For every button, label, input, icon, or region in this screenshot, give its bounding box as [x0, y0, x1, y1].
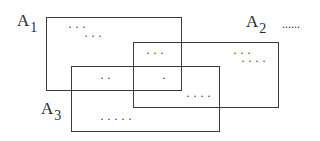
elements-a1-a3-intersection: ·· — [100, 72, 114, 84]
set-a1-label: A1 — [17, 12, 37, 29]
elements-a2-a3-intersection: ···· — [186, 90, 214, 102]
set-a1-letter: A — [17, 11, 29, 30]
set-a3-label: A3 — [41, 100, 61, 117]
elements-a1-a2-intersection: ··· — [146, 47, 167, 59]
set-a2-subscript: 2 — [259, 21, 266, 36]
sets-diagram: A1 A2 A3 ...... ··· ··· ··· ··· ···· ·· … — [0, 0, 320, 141]
set-a2-letter: A — [246, 12, 258, 31]
set-a3-subscript: 3 — [54, 108, 61, 123]
continuation-ellipsis: ...... — [282, 18, 300, 30]
elements-a3-only: ····· — [100, 113, 135, 125]
set-a2-label: A2 — [246, 13, 266, 30]
set-a1-subscript: 1 — [30, 20, 37, 35]
set-a3-letter: A — [41, 99, 53, 118]
elements-a1-a2-a3-intersection: · — [162, 72, 169, 84]
elements-a2-only-row2: ···· — [241, 55, 269, 67]
elements-a1-only-row2: ··· — [84, 30, 105, 42]
